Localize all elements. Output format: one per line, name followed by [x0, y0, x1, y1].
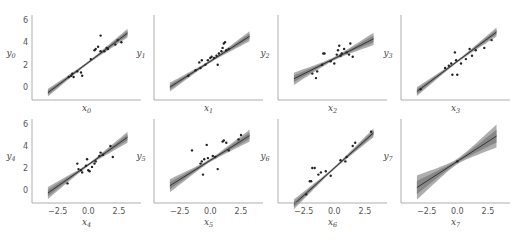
- data-point: [102, 154, 104, 156]
- x-axis-label: x3: [451, 103, 460, 115]
- data-point: [333, 62, 335, 64]
- data-point: [311, 167, 313, 169]
- regression-line: [48, 137, 128, 193]
- data-point: [90, 58, 92, 60]
- y-tick-label: 4: [23, 142, 28, 151]
- x-tick-label: 0.0: [328, 207, 341, 216]
- facet-scatter-figure: 0246x0y0x1y1x2y2x3y30246−2.50.02.5x4y4−2…: [0, 0, 524, 241]
- data-point: [225, 142, 227, 144]
- data-point: [107, 48, 109, 50]
- x-tick-label: −2.5: [170, 207, 189, 216]
- data-point: [317, 173, 319, 175]
- data-point: [80, 71, 82, 73]
- data-point: [66, 182, 68, 184]
- data-point: [120, 41, 122, 43]
- data-point: [456, 74, 458, 76]
- data-point: [223, 139, 225, 141]
- y-axis-label: y4: [5, 151, 15, 163]
- data-point: [448, 65, 450, 67]
- y-tick-label: 6: [23, 16, 28, 25]
- data-point: [336, 53, 338, 55]
- data-point: [456, 160, 458, 162]
- data-point: [490, 39, 492, 41]
- data-point: [99, 34, 101, 36]
- data-point: [320, 171, 322, 173]
- subplot-panel-0: 0246x0y0: [5, 15, 141, 115]
- y-axis-label: y6: [259, 151, 269, 163]
- data-point: [210, 56, 212, 58]
- data-point: [93, 162, 95, 164]
- x-axis-label: x5: [204, 217, 213, 229]
- data-point: [207, 59, 209, 61]
- data-point: [454, 51, 456, 53]
- regression-line: [417, 32, 497, 92]
- y-tick-label: 4: [23, 38, 28, 47]
- y-tick-label: 2: [23, 61, 28, 70]
- data-point: [352, 56, 354, 58]
- y-axis-label: y2: [259, 48, 269, 60]
- data-point: [203, 158, 205, 160]
- data-point: [72, 76, 74, 78]
- data-point: [339, 55, 341, 57]
- data-point: [95, 48, 97, 50]
- data-point: [201, 59, 203, 61]
- data-point: [77, 168, 79, 170]
- data-point: [325, 170, 327, 172]
- data-point: [81, 171, 83, 173]
- data-point: [316, 70, 318, 72]
- data-point: [345, 51, 347, 53]
- data-point: [207, 157, 209, 159]
- data-point: [305, 193, 307, 195]
- data-point: [310, 180, 312, 182]
- data-point: [450, 62, 452, 64]
- data-point: [97, 46, 99, 48]
- data-point: [460, 62, 462, 64]
- data-point: [220, 50, 222, 52]
- data-point: [354, 142, 356, 144]
- data-point: [199, 67, 201, 69]
- data-point: [237, 138, 239, 140]
- data-point: [206, 144, 208, 146]
- data-point: [228, 48, 230, 50]
- data-point: [213, 57, 215, 59]
- x-tick-label: 2.5: [113, 207, 126, 216]
- data-point: [91, 166, 93, 168]
- x-tick-label: −2.5: [48, 207, 67, 216]
- data-point: [370, 131, 372, 133]
- data-point: [99, 151, 101, 153]
- data-point: [80, 169, 82, 171]
- y-tick-label: 0: [23, 186, 28, 195]
- data-point: [71, 72, 73, 74]
- data-point: [199, 162, 201, 164]
- data-point: [215, 55, 217, 57]
- subplot-panel-5: −2.50.02.5x5y5: [135, 119, 263, 229]
- data-point: [191, 149, 193, 151]
- data-point: [419, 88, 421, 90]
- y-tick-label: 0: [23, 83, 28, 92]
- data-point: [343, 48, 345, 50]
- data-point: [483, 47, 485, 49]
- x-axis-label: x6: [328, 217, 337, 229]
- data-point: [228, 149, 230, 151]
- data-point: [315, 77, 317, 79]
- data-point: [217, 168, 219, 170]
- y-tick-label: 2: [23, 164, 28, 173]
- data-point: [345, 156, 347, 158]
- data-point: [221, 47, 223, 49]
- y-axis-label: y7: [382, 151, 393, 163]
- y-axis-label: y0: [5, 48, 15, 60]
- data-point: [198, 61, 200, 63]
- data-point: [202, 173, 204, 175]
- data-point: [348, 53, 350, 55]
- data-point: [112, 156, 114, 158]
- data-point: [465, 58, 467, 60]
- data-point: [187, 75, 189, 77]
- data-point: [218, 52, 220, 54]
- subplot-panel-2: x2y2: [259, 15, 387, 115]
- x-tick-label: 0.0: [82, 207, 95, 216]
- data-point: [68, 76, 70, 78]
- x-axis-label: x1: [204, 103, 213, 115]
- data-point: [455, 59, 457, 61]
- data-point: [225, 49, 227, 51]
- data-point: [194, 69, 196, 71]
